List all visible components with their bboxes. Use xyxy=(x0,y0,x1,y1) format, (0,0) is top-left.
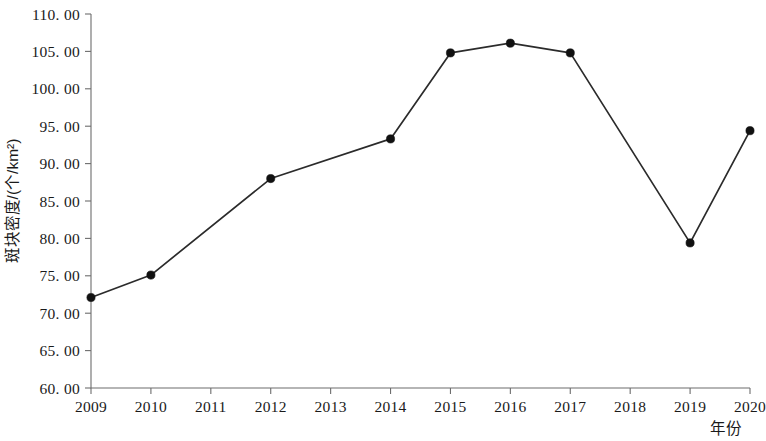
series-data-point[interactable] xyxy=(746,127,754,135)
x-axis-tick-label: 2009 xyxy=(75,398,107,415)
x-axis-tick-label: 2014 xyxy=(374,398,406,415)
y-axis-tick-label: 95. 00 xyxy=(39,118,80,135)
series-data-point[interactable] xyxy=(506,39,514,47)
x-axis-title: 年份 xyxy=(710,420,742,437)
y-axis-tick-label: 80. 00 xyxy=(39,230,80,247)
x-axis-tick-label: 2013 xyxy=(315,398,347,415)
series-data-point[interactable] xyxy=(267,174,275,182)
series-data-point[interactable] xyxy=(686,239,694,247)
x-axis-tick-label: 2012 xyxy=(255,398,287,415)
x-axis-tick-label: 2016 xyxy=(494,398,526,415)
y-axis-tick-label: 75. 00 xyxy=(39,267,80,284)
x-axis-tick-label: 2017 xyxy=(554,398,586,415)
y-axis-tick-label: 65. 00 xyxy=(39,342,80,359)
y-axis-tick-label: 90. 00 xyxy=(39,155,80,172)
series-data-point[interactable] xyxy=(446,49,454,57)
series-data-point[interactable] xyxy=(386,135,394,143)
series-data-point[interactable] xyxy=(147,271,155,279)
y-axis-tick-label: 105. 00 xyxy=(31,43,80,60)
y-axis-tick-label: 60. 00 xyxy=(39,380,80,397)
y-axis-tick-label: 100. 00 xyxy=(31,80,80,97)
x-axis-tick-label: 2015 xyxy=(434,398,466,415)
y-axis-tick-label: 70. 00 xyxy=(39,305,80,322)
x-axis-tick-label: 2010 xyxy=(135,398,167,415)
y-axis-tick-label: 110. 00 xyxy=(32,6,80,23)
x-axis-tick-label: 2019 xyxy=(674,398,706,415)
series-line-patch-density xyxy=(91,43,750,297)
chart-figure: 110. 00105. 00100. 0095. 0090. 0085. 008… xyxy=(0,0,766,441)
line-chart-plot: 110. 00105. 00100. 0095. 0090. 0085. 008… xyxy=(0,0,766,441)
y-axis-tick-label: 85. 00 xyxy=(39,193,80,210)
axis-spines xyxy=(91,14,750,388)
x-axis-tick-label: 2011 xyxy=(195,398,227,415)
series-data-point[interactable] xyxy=(87,293,95,301)
x-axis-tick-label: 2020 xyxy=(734,398,766,415)
x-axis-tick-label: 2018 xyxy=(614,398,646,415)
y-axis-title: 斑块密度/(个/km²) xyxy=(4,139,21,264)
series-data-point[interactable] xyxy=(566,49,574,57)
